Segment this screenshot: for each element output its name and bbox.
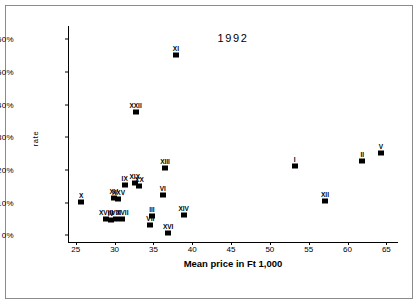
data-point-label: III [149, 206, 154, 213]
data-point-label: XX [135, 176, 144, 183]
data-point-marker [149, 213, 155, 218]
x-axis-tick-label: 65 [382, 245, 391, 254]
x-axis-tick-label: 35 [149, 245, 158, 254]
data-point-marker [162, 166, 168, 171]
data-point-marker [133, 110, 139, 115]
x-axis-tick-label: 40 [188, 245, 197, 254]
y-axis-tick-label: 30% [0, 133, 14, 142]
data-point-label: X [79, 192, 83, 199]
x-axis-tick-mark [192, 242, 193, 245]
y-axis-tick-label: 50% [0, 67, 14, 76]
data-point-label: XIV [178, 205, 188, 212]
x-axis-tick-mark [115, 242, 116, 245]
data-point-marker [136, 183, 142, 188]
y-axis-tick-label: 10% [0, 198, 14, 207]
x-axis-tick-mark [153, 242, 154, 245]
y-axis-tick-mark [65, 39, 68, 40]
y-axis-tick-mark [65, 104, 68, 105]
x-axis-tick-label: 60 [343, 245, 352, 254]
data-point-label: VI [160, 185, 166, 192]
chart-frame: 1992 rate Mean price in Ft 1,000 0%10%20… [5, 5, 413, 299]
x-axis-tick-mark [348, 242, 349, 245]
y-axis-tick-mark [65, 170, 68, 171]
x-axis-label: Mean price in Ft 1,000 [184, 258, 283, 269]
data-point-marker [122, 183, 128, 188]
data-point-label: XXII [129, 103, 141, 110]
data-point-label: XVI [163, 224, 173, 231]
data-point-label: XII [321, 191, 329, 198]
y-axis-tick-label: 40% [0, 100, 14, 109]
x-axis-tick-mark [231, 242, 232, 245]
data-point-marker [322, 198, 328, 203]
y-axis-tick-mark [65, 235, 68, 236]
y-axis-tick-label: 0% [2, 231, 14, 240]
x-axis-tick-label: 50 [265, 245, 274, 254]
data-point-marker [147, 223, 153, 228]
data-point-label: XXV [112, 189, 125, 196]
x-axis-tick-label: 45 [227, 245, 236, 254]
data-point-marker [173, 53, 179, 58]
x-axis-tick-mark [309, 242, 310, 245]
data-point-label: XI [173, 46, 179, 53]
y-axis-label: rate [31, 130, 40, 146]
data-point-marker [181, 212, 187, 217]
data-point-label: XIII [160, 159, 170, 166]
x-axis-tick-mark [270, 242, 271, 245]
data-point-label: I [294, 156, 296, 163]
x-axis-tick-mark [76, 242, 77, 245]
data-point-marker [378, 150, 384, 155]
y-axis-tick-mark [65, 202, 68, 203]
data-point-marker [119, 216, 125, 221]
data-point-marker [115, 196, 121, 201]
data-point-marker [113, 217, 119, 222]
data-point-marker [165, 231, 171, 236]
x-axis-tick-mark [386, 242, 387, 245]
data-point-marker [359, 158, 365, 163]
x-axis-tick-label: 25 [71, 245, 80, 254]
data-point-marker [78, 199, 84, 204]
y-axis-tick-label: 20% [0, 166, 14, 175]
data-point-marker [160, 192, 166, 197]
data-point-label: II [360, 151, 364, 158]
x-axis-tick-label: 30 [110, 245, 119, 254]
y-axis-tick-mark [65, 137, 68, 138]
y-axis-tick-mark [65, 71, 68, 72]
data-point-label: V [379, 143, 383, 150]
y-axis-tick-label: 60% [0, 35, 14, 44]
data-point-label: XVII [116, 209, 128, 216]
x-axis-tick-label: 55 [304, 245, 313, 254]
data-point-marker [292, 163, 298, 168]
data-point-label: IX [122, 176, 128, 183]
